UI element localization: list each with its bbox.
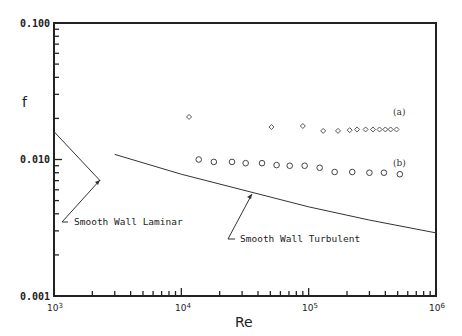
diamond-marker [370, 127, 375, 132]
x-tick-label-1e6: 106 [429, 302, 445, 313]
x-tick-label-1e4: 104 [175, 302, 191, 313]
diamond-marker [377, 127, 382, 132]
laminar-annotation: Smooth Wall Laminar [74, 216, 183, 227]
diamond-marker [388, 127, 393, 132]
diamond-marker [300, 123, 305, 128]
diamond-marker [383, 127, 388, 132]
x-tick-label-1e5: 105 [302, 302, 318, 313]
y-axis-title: f [22, 94, 28, 110]
diamond-marker [347, 128, 352, 133]
diamond-marker [336, 128, 341, 133]
diamond-marker [269, 125, 274, 130]
series-a-label: (a) [393, 107, 405, 117]
diamond-marker [394, 127, 399, 132]
diamond-marker [187, 114, 192, 119]
circle-marker [229, 159, 235, 165]
axis-ticks [54, 29, 430, 296]
y-tick-label-0.010: 0.010 [20, 154, 50, 165]
circle-marker [332, 169, 338, 175]
circle-marker [259, 160, 265, 166]
circle-marker [397, 171, 403, 177]
diamond-marker [321, 128, 326, 133]
turbulent-arrow-head [247, 194, 252, 199]
circle-marker [211, 159, 217, 165]
y-tick-label-0.001: 0.001 [20, 291, 50, 302]
circle-marker [349, 169, 355, 175]
circle-marker [367, 170, 373, 176]
y-tick-label-0.100: 0.100 [20, 18, 50, 29]
series-b-label: (b) [393, 158, 406, 168]
circle-marker [196, 157, 202, 163]
x-axis-title: Re [235, 314, 253, 330]
circle-marker [274, 162, 280, 168]
turbulent-annotation: Smooth Wall Turbulent [240, 233, 360, 244]
circle-marker [243, 160, 249, 166]
diamond-marker [363, 127, 368, 132]
plot-frame [54, 23, 436, 296]
circle-marker [287, 163, 293, 169]
circle-marker [317, 165, 323, 171]
circle-marker [381, 170, 387, 176]
friction-factor-chart: 0.100 0.010 0.001 f 103 104 105 106 Re (… [0, 0, 462, 336]
circle-marker [302, 163, 308, 169]
diamond-marker [355, 127, 360, 132]
smooth-wall-laminar-curve [54, 132, 100, 181]
x-tick-label-1e3: 103 [47, 302, 63, 313]
data-points [187, 114, 403, 177]
